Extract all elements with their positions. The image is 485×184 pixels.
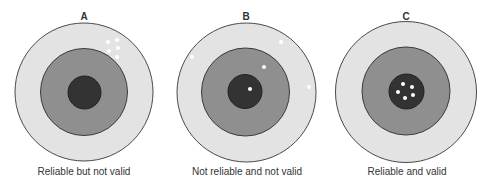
hit-dot xyxy=(403,96,407,100)
hit-dot xyxy=(116,46,120,50)
target-b: B Not reliable and not valid xyxy=(177,11,316,177)
hit-dot xyxy=(410,85,414,89)
target-label-b: B xyxy=(242,11,249,22)
target-label-a: A xyxy=(80,11,87,22)
hit-dot xyxy=(401,82,405,86)
target-a-bullseye xyxy=(68,76,101,109)
target-caption-b: Not reliable and not valid xyxy=(192,166,302,177)
target-a: A Reliable but not valid xyxy=(15,11,153,177)
hit-dot xyxy=(248,87,252,91)
hit-dot xyxy=(307,85,311,89)
reliability-validity-diagram: A Reliable but not valid B Not reliable … xyxy=(0,0,485,184)
target-label-c: C xyxy=(402,11,409,22)
target-caption-c: Reliable and valid xyxy=(368,166,447,177)
hit-dot xyxy=(115,55,119,59)
hit-dot xyxy=(107,49,111,53)
hit-dot xyxy=(411,93,415,97)
hit-dot xyxy=(396,90,400,94)
target-b-bullseye xyxy=(228,75,262,109)
target-caption-a: Reliable but not valid xyxy=(38,166,131,177)
hit-dot xyxy=(106,40,110,44)
hit-dot xyxy=(115,38,119,42)
hit-dot xyxy=(190,55,194,59)
hit-dot xyxy=(279,40,283,44)
target-c: C Reliable and valid xyxy=(336,11,477,177)
hit-dot xyxy=(262,65,266,69)
target-c-bullseye xyxy=(389,74,424,109)
